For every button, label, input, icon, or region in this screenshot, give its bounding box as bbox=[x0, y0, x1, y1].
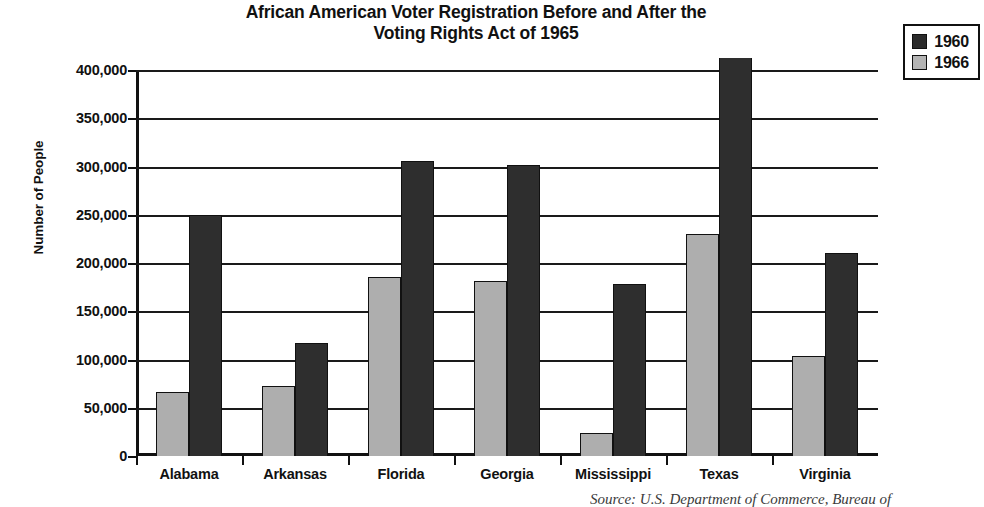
bar-group-texas bbox=[666, 70, 772, 456]
bar-groups bbox=[136, 70, 878, 456]
y-tick-label: 150,000 bbox=[76, 303, 127, 319]
y-tick-label: 250,000 bbox=[76, 207, 127, 223]
bar-alabama-1960 bbox=[189, 215, 222, 456]
bar-mississippi-1966 bbox=[580, 433, 613, 456]
y-tick-mark bbox=[128, 360, 136, 362]
x-label-mississippi: Mississippi bbox=[560, 466, 666, 482]
x-axis-tick bbox=[242, 456, 244, 465]
y-tick-label: 0 bbox=[119, 448, 127, 464]
chart-legend: 1960 1966 bbox=[903, 24, 980, 80]
bar-group-alabama bbox=[136, 70, 242, 456]
bar-virginia-1966 bbox=[792, 356, 825, 456]
x-label-georgia: Georgia bbox=[454, 466, 560, 482]
y-tick-mark bbox=[128, 408, 136, 410]
x-axis-tick bbox=[348, 456, 350, 465]
bar-texas-1960 bbox=[719, 58, 752, 456]
y-tick-mark bbox=[128, 311, 136, 313]
x-axis-tick bbox=[772, 456, 774, 465]
bar-texas-1966 bbox=[686, 234, 719, 456]
y-tick-mark bbox=[128, 215, 136, 217]
x-label-alabama: Alabama bbox=[136, 466, 242, 482]
legend-item-1966: 1966 bbox=[912, 52, 969, 73]
y-tick-mark bbox=[128, 456, 136, 458]
y-axis-title: Number of People bbox=[31, 98, 46, 298]
bar-group-georgia bbox=[454, 70, 560, 456]
page-title: African American Voter Registration Befo… bbox=[96, 2, 856, 44]
bar-mississippi-1960 bbox=[613, 284, 646, 456]
title-line-2: Voting Rights Act of 1965 bbox=[96, 23, 856, 44]
y-tick-label: 200,000 bbox=[76, 255, 127, 271]
y-tick-mark bbox=[128, 118, 136, 120]
legend-swatch-light-square-icon bbox=[912, 55, 927, 70]
x-label-arkansas: Arkansas bbox=[242, 466, 348, 482]
y-tick-label: 300,000 bbox=[76, 159, 127, 175]
bar-group-florida bbox=[348, 70, 454, 456]
plot-area: 050,000100,000150,000200,000250,000300,0… bbox=[136, 70, 878, 456]
bar-arkansas-1960 bbox=[295, 343, 328, 456]
x-axis-tick bbox=[136, 456, 138, 465]
bar-alabama-1966 bbox=[156, 392, 189, 456]
y-tick-mark bbox=[128, 167, 136, 169]
y-tick-mark bbox=[128, 70, 136, 72]
legend-label-1966: 1966 bbox=[934, 55, 969, 71]
bar-florida-1960 bbox=[401, 161, 434, 456]
y-tick-label: 400,000 bbox=[76, 62, 127, 78]
x-axis-tick bbox=[666, 456, 668, 465]
x-axis-labels: AlabamaArkansasFloridaGeorgiaMississippi… bbox=[136, 466, 878, 482]
bar-arkansas-1966 bbox=[262, 386, 295, 456]
legend-swatch-dark-square-icon bbox=[912, 34, 927, 49]
legend-label-1960: 1960 bbox=[934, 34, 969, 50]
bar-georgia-1960 bbox=[507, 165, 540, 456]
bar-group-mississippi bbox=[560, 70, 666, 456]
x-axis-tick bbox=[454, 456, 456, 465]
bar-group-virginia bbox=[772, 70, 878, 456]
bar-florida-1966 bbox=[368, 277, 401, 456]
legend-item-1960: 1960 bbox=[912, 31, 969, 52]
x-label-florida: Florida bbox=[348, 466, 454, 482]
bar-virginia-1960 bbox=[825, 253, 858, 456]
y-tick-label: 50,000 bbox=[84, 400, 127, 416]
y-tick-label: 350,000 bbox=[76, 110, 127, 126]
x-axis-tick bbox=[560, 456, 562, 465]
y-tick-mark bbox=[128, 263, 136, 265]
title-line-1: African American Voter Registration Befo… bbox=[96, 2, 856, 23]
x-label-virginia: Virginia bbox=[772, 466, 878, 482]
bar-georgia-1966 bbox=[474, 281, 507, 456]
bar-group-arkansas bbox=[242, 70, 348, 456]
y-tick-label: 100,000 bbox=[76, 352, 127, 368]
x-label-texas: Texas bbox=[666, 466, 772, 482]
source-note: Source: U.S. Department of Commerce, Bur… bbox=[590, 491, 984, 507]
